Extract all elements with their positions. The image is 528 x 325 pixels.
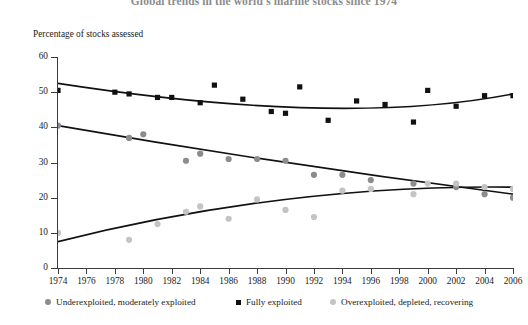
data-point [58,88,61,93]
legend-marker-circle-icon [45,299,51,305]
data-point [311,172,317,178]
y-tick-mark [51,268,58,269]
data-point [226,156,232,162]
data-point [368,186,374,192]
data-point [326,118,331,123]
x-tick-mark [456,268,457,274]
data-point [269,109,274,114]
data-point [453,181,459,187]
x-tick-mark [86,268,87,274]
data-point [197,203,203,209]
data-point [169,95,174,100]
data-point [126,91,131,96]
x-tick-label: 2006 [496,276,528,286]
data-point [510,93,513,98]
data-point [411,119,416,124]
x-tick-mark [314,268,315,274]
data-point [254,156,260,162]
y-axis-label: Percentage of stocks assessed [33,29,143,39]
data-point [339,188,345,194]
x-tick-mark [200,268,201,274]
trend-line-2 [58,187,513,242]
chart-figure: Global trends in the world's marine stoc… [0,0,528,325]
y-tick-mark [51,57,58,58]
x-tick-mark [286,268,287,274]
data-point [311,214,317,220]
y-tick-label: 10 [22,227,48,237]
data-point [283,111,288,116]
y-tick-mark [51,92,58,93]
data-point [382,102,387,107]
data-point [368,177,374,183]
data-point [282,207,288,213]
plot-area [58,57,513,268]
data-point [482,93,487,98]
x-tick-mark [143,268,144,274]
data-point [155,95,160,100]
x-tick-mark [485,268,486,274]
x-tick-mark [371,268,372,274]
data-point [481,184,487,190]
data-point [58,122,61,128]
y-tick-mark [51,163,58,164]
data-point [240,97,245,102]
y-tick-label: 40 [22,121,48,131]
trend-line-1 [58,83,513,108]
x-tick-mark [399,268,400,274]
data-point [410,181,416,187]
y-tick-label: 0 [22,262,48,272]
y-tick-label: 20 [22,192,48,202]
x-tick-mark [115,268,116,274]
data-point [112,90,117,95]
data-point [425,181,431,187]
data-point [425,88,430,93]
data-point [58,230,61,236]
data-point [297,84,302,89]
x-tick-mark [229,268,230,274]
data-point [197,151,203,157]
data-point [226,216,232,222]
y-tick-mark [51,127,58,128]
data-point [126,237,132,243]
data-point [183,209,189,215]
chart-legend: Underexploited, moderately exploitedFull… [0,297,528,311]
y-tick-mark [51,198,58,199]
data-point [140,131,146,137]
data-point [354,98,359,103]
legend-label: Fully exploited [246,297,302,307]
y-tick-mark [51,233,58,234]
legend-marker-square-icon [236,300,241,305]
legend-marker-circle-icon [330,299,336,305]
data-point [339,172,345,178]
data-point [254,196,260,202]
x-tick-mark [172,268,173,274]
x-tick-mark [428,268,429,274]
legend-label: Underexploited, moderately exploited [56,297,196,307]
x-tick-mark [58,268,59,274]
x-tick-mark [342,268,343,274]
y-tick-label: 30 [22,157,48,167]
legend-item-0[interactable]: Underexploited, moderately exploited [45,297,196,307]
legend-label: Overexploited, depleted, recovering [341,297,473,307]
x-tick-mark [513,268,514,274]
y-tick-label: 50 [22,86,48,96]
legend-item-2[interactable]: Overexploited, depleted, recovering [330,297,473,307]
data-point [454,104,459,109]
legend-item-1[interactable]: Fully exploited [236,297,302,307]
data-point [154,221,160,227]
data-point [183,158,189,164]
data-point [481,191,487,197]
chart-title: Global trends in the world's marine stoc… [0,0,528,7]
data-point [198,100,203,105]
data-point [410,191,416,197]
data-point [282,158,288,164]
x-tick-mark [257,268,258,274]
y-tick-label: 60 [22,51,48,61]
data-point [510,195,513,201]
data-point [212,83,217,88]
data-point [126,135,132,141]
